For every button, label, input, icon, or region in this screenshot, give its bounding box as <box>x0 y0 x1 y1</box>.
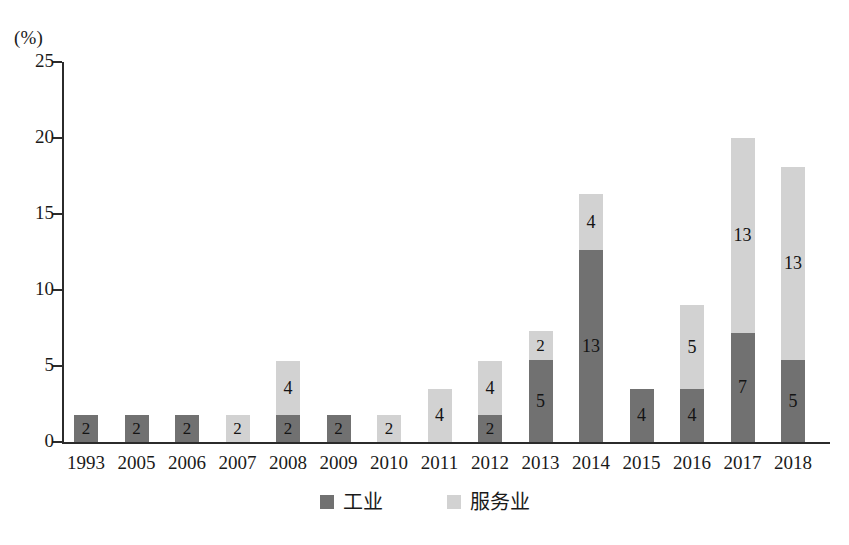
bar-segment-industry[interactable]: 4 <box>680 389 704 442</box>
legend-label: 服务业 <box>470 492 530 512</box>
x-axis-label: 2018 <box>763 452 823 474</box>
bar-segment-service[interactable]: 2 <box>529 331 553 360</box>
bar-value-label: 2 <box>486 420 495 437</box>
bar-value-label: 4 <box>688 406 697 424</box>
bar-stack[interactable]: 2 <box>74 415 98 442</box>
y-axis-tick-label: 25 <box>35 51 54 71</box>
bar-value-label: 2 <box>536 337 545 354</box>
bar-stack[interactable]: 2 <box>327 415 351 442</box>
bar-segment-industry[interactable]: 4 <box>630 389 654 442</box>
bar-value-label: 2 <box>82 420 91 437</box>
y-axis-unit-label: (%) <box>14 28 43 47</box>
bar-segment-industry[interactable]: 2 <box>175 415 199 442</box>
y-axis-tick-label: 0 <box>45 431 55 451</box>
bar-segment-service[interactable]: 5 <box>680 305 704 389</box>
bar-segment-industry[interactable]: 2 <box>125 415 149 442</box>
bar-segment-industry[interactable]: 5 <box>781 360 805 442</box>
bar-value-label: 7 <box>738 378 747 396</box>
bar-stack[interactable]: 4 <box>428 389 452 442</box>
bar-stack[interactable]: 135 <box>781 167 805 442</box>
bar-segment-industry[interactable]: 2 <box>74 415 98 442</box>
bar-segment-industry[interactable]: 7 <box>731 333 755 442</box>
bar-value-label: 5 <box>688 338 697 356</box>
bar-value-label: 4 <box>486 379 495 397</box>
bar-stack[interactable]: 4 <box>630 389 654 442</box>
legend-swatch-icon <box>320 495 334 509</box>
x-axis-line <box>62 442 830 444</box>
y-axis-tick-label: 20 <box>35 127 54 147</box>
legend-item[interactable]: 服务业 <box>447 492 530 512</box>
bar-segment-industry[interactable]: 2 <box>327 415 351 442</box>
bar-value-label: 4 <box>637 406 646 424</box>
bar-value-label: 5 <box>536 392 545 410</box>
bar-stack[interactable]: 42 <box>276 361 300 442</box>
bar-value-label: 2 <box>132 420 141 437</box>
bar-value-label: 2 <box>233 420 242 437</box>
bar-value-label: 2 <box>385 420 394 437</box>
y-axis-tick-label: 10 <box>35 279 54 299</box>
bar-stack[interactable]: 42 <box>478 361 502 442</box>
bar-segment-service[interactable]: 4 <box>428 389 452 442</box>
bar-value-label: 4 <box>587 213 596 231</box>
bar-segment-industry[interactable]: 2 <box>276 415 300 442</box>
bar-stack[interactable]: 25 <box>529 331 553 442</box>
bar-stack[interactable]: 2 <box>125 415 149 442</box>
bar-value-label: 5 <box>789 392 798 410</box>
bar-segment-industry[interactable]: 2 <box>478 415 502 442</box>
bar-value-label: 13 <box>734 226 752 244</box>
stacked-bar-chart: (%) 0510152025 2222422244225413454137135… <box>0 0 849 545</box>
bar-value-label: 4 <box>435 406 444 424</box>
y-axis-tick-label: 15 <box>35 203 54 223</box>
bar-segment-service[interactable]: 2 <box>226 415 250 442</box>
bar-segment-service[interactable]: 13 <box>781 167 805 360</box>
bar-value-label: 13 <box>582 337 600 355</box>
legend-item[interactable]: 工业 <box>320 492 383 512</box>
bar-stack[interactable]: 413 <box>579 194 603 442</box>
bar-segment-service[interactable]: 13 <box>731 138 755 333</box>
y-axis-line <box>62 62 64 444</box>
bar-value-label: 13 <box>784 254 802 272</box>
bar-segment-industry[interactable]: 13 <box>579 250 603 442</box>
y-axis-tick-label: 5 <box>45 355 55 375</box>
bar-segment-service[interactable]: 4 <box>276 361 300 416</box>
bar-value-label: 4 <box>284 379 293 397</box>
bar-stack[interactable]: 54 <box>680 305 704 442</box>
chart-legend: 工业服务业 <box>0 492 849 512</box>
plot-area: 0510152025 2222422244225413454137135 <box>62 62 830 444</box>
bar-value-label: 2 <box>183 420 192 437</box>
bar-stack[interactable]: 2 <box>377 415 401 442</box>
legend-label: 工业 <box>343 492 383 512</box>
bar-segment-service[interactable]: 4 <box>579 194 603 250</box>
legend-swatch-icon <box>447 495 461 509</box>
bar-value-label: 2 <box>334 420 343 437</box>
bar-stack[interactable]: 2 <box>226 415 250 442</box>
bar-stack[interactable]: 137 <box>731 138 755 442</box>
bar-value-label: 2 <box>284 420 293 437</box>
bar-segment-industry[interactable]: 5 <box>529 360 553 442</box>
bar-segment-service[interactable]: 4 <box>478 361 502 416</box>
bar-stack[interactable]: 2 <box>175 415 199 442</box>
bar-segment-service[interactable]: 2 <box>377 415 401 442</box>
